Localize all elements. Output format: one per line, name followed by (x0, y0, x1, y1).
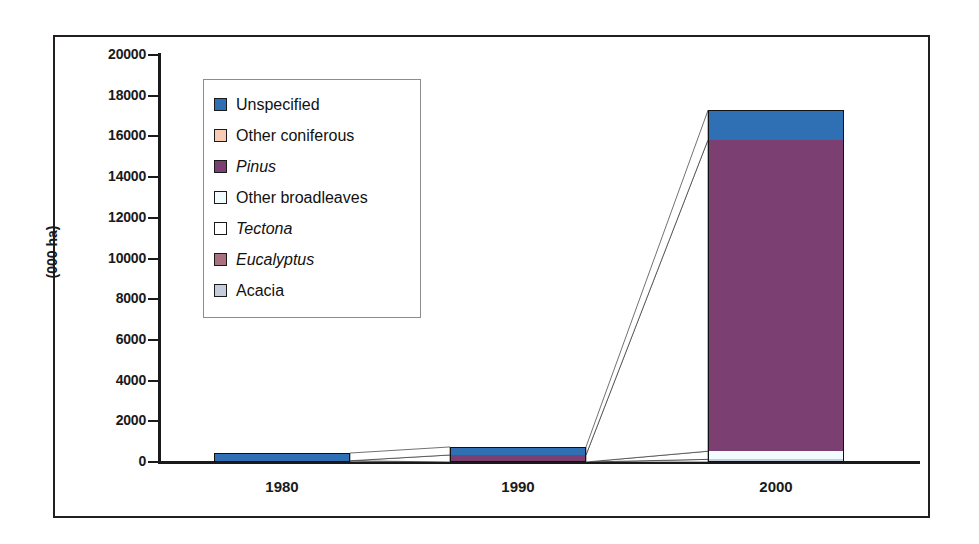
y-axis-tick-label: 2000 (60, 412, 146, 428)
x-axis-tick-label: 2000 (716, 478, 836, 495)
bar-segment-acacia[interactable] (708, 459, 844, 462)
legend-swatch-icon (214, 191, 227, 204)
bar-segment-pinus[interactable] (708, 140, 844, 451)
legend-label: Pinus (236, 158, 276, 176)
y-axis-tick-label: 4000 (60, 372, 146, 388)
bar-segment-pinus[interactable] (450, 455, 586, 462)
bar-segment-unspecified[interactable] (708, 110, 844, 140)
legend-label: Acacia (236, 282, 284, 300)
y-axis-tick-label: 14000 (60, 168, 146, 184)
y-axis-tick-label: 20000 (60, 46, 146, 62)
chart-legend: UnspecifiedOther coniferousPinusOther br… (203, 79, 421, 318)
y-axis-tick-label: 10000 (60, 250, 146, 266)
bar-segment-other-broadleaves[interactable] (708, 451, 844, 459)
legend-swatch-icon (214, 160, 227, 173)
legend-item-acacia[interactable]: Acacia (214, 275, 420, 306)
legend-swatch-icon (214, 129, 227, 142)
y-axis-tick-label: 8000 (60, 290, 146, 306)
legend-swatch-icon (214, 253, 227, 266)
legend-swatch-icon (214, 222, 227, 235)
legend-label: Unspecified (236, 96, 320, 114)
bar-segment-unspecified[interactable] (214, 453, 350, 461)
legend-label: Eucalyptus (236, 251, 314, 269)
connector-band (586, 140, 708, 462)
bar-2000[interactable] (708, 55, 844, 462)
legend-label: Other coniferous (236, 127, 354, 145)
x-axis-tick-label: 1990 (458, 478, 578, 495)
legend-item-tectona[interactable]: Tectona (214, 213, 420, 244)
y-axis-tick-label: 12000 (60, 209, 146, 225)
y-axis-tick-labels: 2000018000160001400012000100008000600040… (46, 0, 146, 544)
screenshot-canvas: (000 ha) 2000018000160001400012000100008… (0, 0, 979, 544)
y-axis-tick-label: 0 (60, 453, 146, 469)
legend-item-unspecified[interactable]: Unspecified (214, 89, 420, 120)
bar-segment-unspecified[interactable] (450, 447, 586, 455)
bar-1990[interactable] (450, 55, 586, 462)
legend-item-other-broadleaves[interactable]: Other broadleaves (214, 182, 420, 213)
legend-label: Other broadleaves (236, 189, 368, 207)
legend-item-pinus[interactable]: Pinus (214, 151, 420, 182)
y-axis-tick-label: 6000 (60, 331, 146, 347)
legend-item-other-coniferous[interactable]: Other coniferous (214, 120, 420, 151)
legend-swatch-icon (214, 284, 227, 297)
y-axis-tick-label: 16000 (60, 127, 146, 143)
bar-segment-other-broadleaves[interactable] (214, 461, 350, 462)
x-axis-tick-label: 1980 (222, 478, 342, 495)
legend-label: Tectona (236, 220, 292, 238)
legend-swatch-icon (214, 98, 227, 111)
y-axis-tick-label: 18000 (60, 87, 146, 103)
legend-item-eucalyptus[interactable]: Eucalyptus (214, 244, 420, 275)
